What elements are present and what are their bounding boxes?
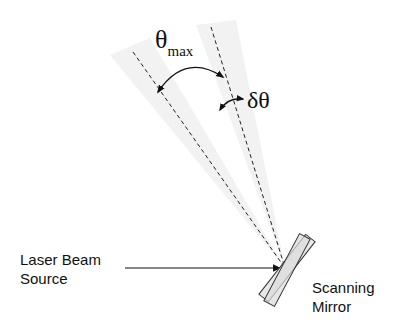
delta-theta-label: δθ [247,87,270,113]
laser-beam-source-label: Laser Beam Source [20,251,105,287]
scanning-mirror-diagram: θmax δθ Laser Beam Source Scanning Mirro… [0,0,394,330]
theta-max-label: θmax [155,25,194,59]
scanning-mirror-label: Scanning Mirror [312,279,379,315]
